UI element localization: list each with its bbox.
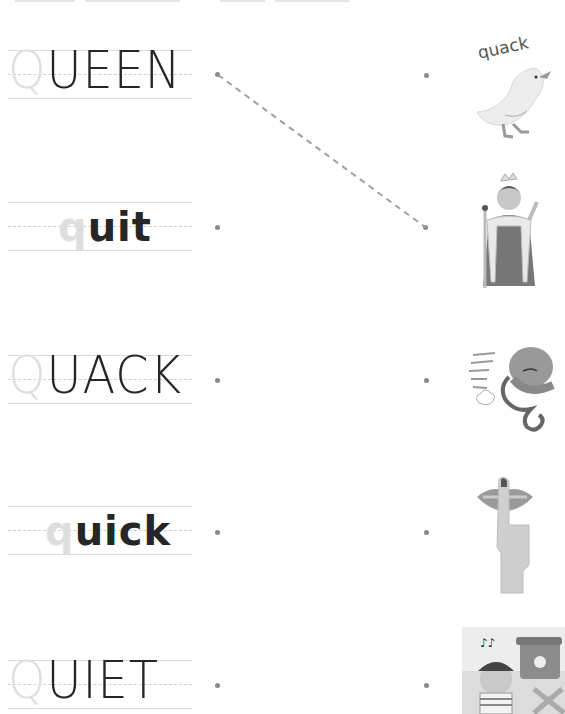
octopus-picture <box>465 333 565 443</box>
queen-picture <box>475 170 545 292</box>
duck-picture: quack <box>465 25 565 140</box>
quack-caption: quack <box>476 32 530 62</box>
finger-on-lips-picture <box>475 475 555 595</box>
boy-with-trash-can-picture: ♪♪ <box>462 627 565 714</box>
svg-text:♪♪: ♪♪ <box>480 636 495 650</box>
